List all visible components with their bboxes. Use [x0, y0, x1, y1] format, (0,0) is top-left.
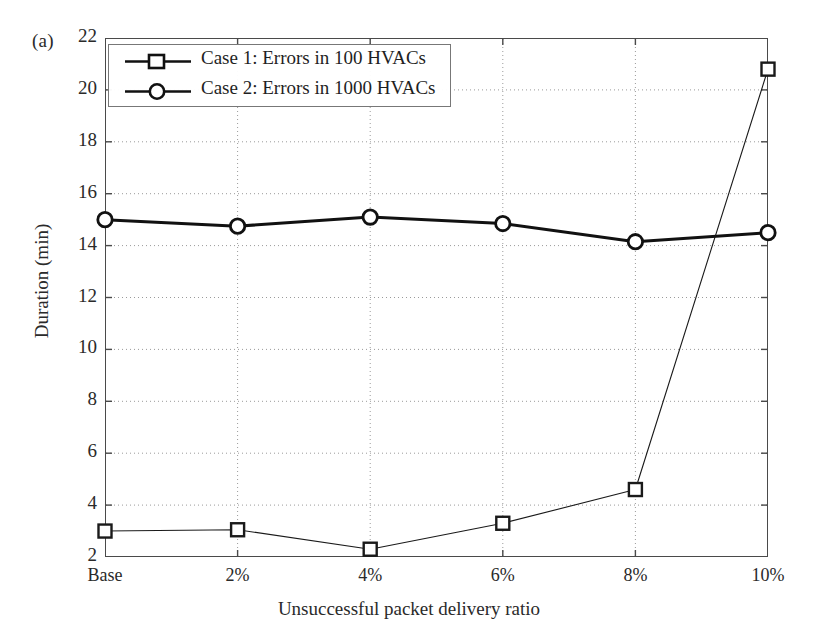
y-tick-label: 12: [57, 285, 97, 307]
y-tick-label: 2: [57, 544, 97, 566]
x-tick-label: 2%: [193, 565, 283, 586]
figure-panel-a: (a) 246810121416182022 Base2%4%6%8%10% D…: [0, 0, 818, 641]
x-tick-label: 4%: [325, 565, 415, 586]
legend: Case 1: Errors in 100 HVACs Case 2: Erro…: [108, 44, 451, 107]
y-tick-label: 4: [57, 492, 97, 514]
legend-label-case-1: Case 1: Errors in 100 HVACs: [201, 47, 426, 69]
y-axis-label: Duration (min): [31, 181, 53, 381]
y-tick-label: 16: [57, 181, 97, 203]
plot-frame: [105, 38, 768, 557]
x-tick-label: 6%: [458, 565, 548, 586]
x-axis-label: Unsuccessful packet delivery ratio: [0, 598, 818, 620]
x-tick-label: 8%: [590, 565, 680, 586]
x-tick-label: Base: [60, 565, 150, 586]
y-tick-label: 18: [57, 129, 97, 151]
y-tick-label: 8: [57, 388, 97, 410]
y-tick-label: 6: [57, 440, 97, 462]
legend-entry-case-1: Case 1: Errors in 100 HVACs: [109, 46, 452, 77]
x-tick-label: 10%: [723, 565, 813, 586]
legend-label-case-2: Case 2: Errors in 1000 HVACs: [201, 77, 436, 99]
y-tick-label: 20: [57, 77, 97, 99]
y-tick-label: 14: [57, 233, 97, 255]
y-tick-label: 22: [57, 25, 97, 47]
y-tick-label: 10: [57, 336, 97, 358]
legend-entry-case-2: Case 2: Errors in 1000 HVACs: [109, 76, 452, 107]
panel-label: (a): [32, 30, 54, 52]
legend-marker-circle-icon: [123, 76, 193, 107]
legend-marker-square-icon: [123, 46, 193, 77]
